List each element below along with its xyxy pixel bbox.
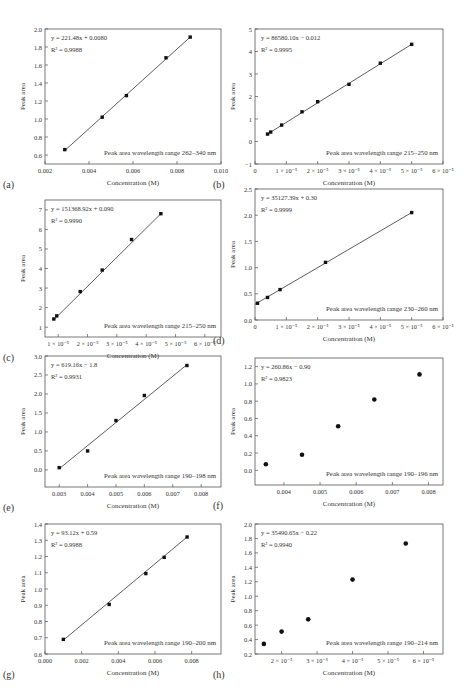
x-tick-label: 1 × 10⁻⁵ [47,340,69,347]
wavelength-annotation: Peak area wavelength range 190–196 nm [326,470,439,477]
y-tick-label: 3 [249,71,252,78]
panel-label: (d) [213,335,225,347]
y-tick-label: 1.4 [34,521,43,528]
fit-equation: y = 151368.92x + 0.090 [51,205,114,212]
x-tick-label: 0.004 [111,657,126,664]
y-tick-label: 1.2 [244,363,252,370]
y-tick-label: 0.4 [244,636,253,643]
data-point [57,466,60,469]
panel-label: (b) [213,179,225,191]
data-point [264,462,269,467]
y-tick-label: 0.2 [244,450,252,457]
r-squared: R² = 0.9931 [51,373,82,380]
y-tick-label: 1.0 [34,428,42,435]
data-point [101,268,104,271]
data-point [280,123,283,126]
y-tick-label: 0.8 [34,134,42,141]
y-tick-label: 0.6 [244,415,253,422]
x-tick-label: 0.007 [166,490,180,497]
x-axis-label: Concentration (M) [323,669,376,677]
figure-canvas: 0.60.81.01.21.41.61.82.00.0020.0040.0060… [0,0,465,697]
panel-d: 0.00.51.01.52.02.501 × 10⁻⁵2 × 10⁻⁵3 × 1… [213,186,454,348]
x-tick-label: 5 × 10⁻⁵ [165,340,187,347]
y-tick-label: 0.6 [34,152,43,159]
y-tick-label: 1.2 [34,98,42,105]
data-point [79,290,82,293]
x-tick-label: 0.008 [421,488,435,495]
data-point [185,535,188,538]
data-point [350,577,355,582]
fit-equation: y = 93.12x + 0.59 [51,529,97,536]
data-point [336,424,341,429]
data-point [52,317,55,320]
fit-line [65,37,190,150]
data-point [410,211,413,214]
y-tick-label: 1.2 [244,578,252,585]
x-tick-label: 2 × 10⁻⁵ [307,323,329,330]
y-axis-label: Peak area [229,240,237,268]
x-tick-label: 3 × 10⁻⁵ [106,340,128,347]
panel-label: (f) [213,500,223,512]
x-axis-label: Concentration (M) [107,502,160,510]
x-axis-label: Concentration (M) [107,669,160,677]
wavelength-annotation: Peak area wavelength range 215–250 nm [104,322,217,329]
data-point [417,372,422,377]
y-tick-label: 1.1 [34,569,42,576]
x-tick-label: 6 × 10⁻⁵ [432,167,454,174]
x-tick-label: 3 × 10⁻⁵ [338,167,360,174]
x-tick-label: 4 × 10⁻⁵ [369,167,391,174]
y-tick-label: 0.0 [244,467,252,474]
y-axis-label: Peak area [19,407,27,435]
wavelength-annotation: Peak area wavelength range 230–260 nm [326,305,439,312]
r-squared: R² = 0.9999 [261,206,292,213]
x-tick-label: 1 × 10⁻⁵ [275,167,297,174]
x-tick-label: 6 × 10⁻⁵ [432,323,454,330]
data-point [125,94,128,97]
y-tick-label: 0.8 [244,607,252,614]
y-axis-label: Peak area [19,254,27,282]
data-point [278,288,281,291]
wavelength-annotation: Peak area wavelength range 262–340 nm [104,149,217,156]
fit-line [54,214,161,320]
data-point [279,629,284,634]
x-tick-label: 0.002 [38,167,52,174]
panel-label: (c) [3,352,14,364]
data-point [347,83,350,86]
wavelength-annotation: Peak area wavelength range 215–250 nm [326,149,439,156]
y-tick-label: 0 [249,138,252,145]
x-tick-label: 4 × 10⁻⁵ [369,323,391,330]
y-tick-label: 3 [39,285,42,292]
x-tick-label: 0.002 [75,657,89,664]
x-tick-label: 5 × 10⁻⁵ [377,657,399,664]
x-tick-label: 0.004 [277,488,292,495]
fit-equation: y = 86580.10x − 0.012 [261,34,320,41]
wavelength-annotation: Peak area wavelength range 190–198 nm [104,472,217,479]
r-squared: R² = 0.9995 [261,46,292,53]
x-tick-label: 4 × 10⁻⁵ [135,340,157,347]
fit-equation: y = 221.48x + 0.0080 [51,34,107,41]
y-tick-label: 2 [39,304,42,311]
x-tick-label: 0.006 [137,490,151,497]
data-point [143,394,146,397]
data-point [144,572,147,575]
data-point [269,130,272,133]
x-tick-label: 1 × 10⁻⁵ [275,323,297,330]
y-tick-label: 2.0 [34,390,42,397]
y-tick-label: 0.8 [244,398,252,405]
r-squared: R² = 0.9988 [51,46,82,53]
r-squared: R² = 0.9988 [51,541,82,548]
y-tick-label: 4 [249,48,253,55]
data-point [86,449,89,452]
x-tick-label: 0 [253,167,256,174]
data-point [159,212,162,215]
r-squared: R² = 0.9940 [261,541,292,548]
panel-h: 0.20.40.60.81.01.21.41.61.82.02 × 10⁻⁵3 … [213,521,443,682]
y-tick-label: 0.0 [244,317,252,324]
y-tick-label: 7 [39,206,43,213]
wavelength-annotation: Peak area wavelength range 190–214 nm [326,639,439,646]
data-point [316,100,319,103]
x-tick-label: 0.008 [185,657,199,664]
data-point [185,364,188,367]
data-point [162,556,165,559]
y-tick-label: 1.2 [34,553,42,560]
